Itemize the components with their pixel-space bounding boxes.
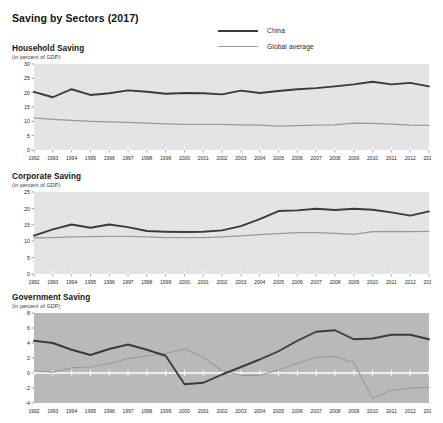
chart-svg-government: -4-2024681992199319941995199619971998199…	[12, 311, 431, 415]
y-tick-label: 15	[24, 104, 30, 110]
panel-title-household: Household Saving	[12, 44, 84, 53]
x-axis-year-label: 1994	[66, 155, 77, 161]
x-axis-year-label: 2001	[198, 408, 209, 414]
y-tick-label: 10	[24, 118, 30, 124]
panel-household-saving: Household Saving (in percent of GDP) 051…	[0, 44, 443, 169]
x-axis-year-label: 1992	[28, 408, 39, 414]
y-tick-label: 8	[27, 311, 30, 316]
x-axis-year-label: 2013	[423, 279, 431, 285]
x-axis-year-label: 1996	[104, 279, 115, 285]
x-axis-year-label: 2008	[329, 155, 340, 161]
x-axis-year-label: 2002	[217, 155, 228, 161]
panel-government-saving: Government Saving (in percent of GDP) -4…	[0, 293, 443, 421]
x-axis-year-label: 2007	[311, 279, 322, 285]
plot-area-government: -4-2024681992199319941995199619971998199…	[12, 311, 431, 415]
panel-subtitle-corporate: (in percent of GDP)	[12, 182, 60, 188]
x-axis-year-label: 2002	[217, 408, 228, 414]
y-tick-label: 0	[27, 370, 30, 376]
plot-background	[34, 64, 429, 150]
x-axis-year-label: 2006	[292, 279, 303, 285]
x-axis-year-label: 2007	[311, 408, 322, 414]
figure-title: Saving by Sectors (2017)	[12, 12, 139, 24]
x-axis-year-label: 2006	[292, 155, 303, 161]
y-tick-label: 2	[27, 355, 30, 361]
x-axis-year-label: 1993	[47, 155, 58, 161]
y-tick-label: 0	[27, 147, 30, 153]
x-axis-year-label: 2000	[179, 155, 190, 161]
plot-background	[34, 313, 429, 403]
x-axis-year-label: 2008	[329, 408, 340, 414]
figure-root: Saving by Sectors (2017) China Global av…	[0, 0, 443, 423]
panel-title-corporate: Corporate Saving	[12, 172, 81, 181]
x-axis-year-label: 1995	[85, 155, 96, 161]
x-axis-year-label: 1994	[66, 408, 77, 414]
x-axis-year-label: 1996	[104, 408, 115, 414]
y-tick-label: 30	[24, 62, 30, 67]
y-tick-label: 5	[27, 255, 30, 261]
x-axis-year-label: 2012	[405, 408, 416, 414]
legend-item-china: China	[218, 24, 388, 37]
x-axis-year-label: 2004	[254, 408, 265, 414]
x-axis-year-label: 2007	[311, 155, 322, 161]
x-axis-year-label: 2001	[198, 155, 209, 161]
x-axis-year-label: 2004	[254, 279, 265, 285]
x-axis-year-label: 2009	[348, 155, 359, 161]
x-axis-year-label: 1993	[47, 408, 58, 414]
y-tick-label: 4	[27, 340, 30, 346]
panel-title-government: Government Saving	[12, 293, 90, 302]
x-axis-year-label: 1997	[122, 155, 133, 161]
x-axis-year-label: 2011	[386, 155, 397, 161]
x-axis-year-label: 2001	[198, 279, 209, 285]
x-axis-year-label: 1997	[122, 279, 133, 285]
x-axis-year-label: 1998	[141, 408, 152, 414]
x-axis-year-label: 1997	[122, 408, 133, 414]
x-axis-year-label: 1999	[160, 408, 171, 414]
x-axis-year-label: 1998	[141, 279, 152, 285]
x-axis-year-label: 1999	[160, 279, 171, 285]
y-tick-label: 5	[27, 133, 30, 139]
plot-background	[34, 192, 429, 274]
x-axis-year-label: 2013	[423, 408, 431, 414]
x-axis-year-label: 2005	[273, 155, 284, 161]
x-axis-year-label: 2002	[217, 279, 228, 285]
chart-svg-household: 0510152025301992199319941995199619971998…	[12, 62, 431, 162]
y-tick-label: 6	[27, 325, 30, 331]
x-axis-year-label: 2008	[329, 279, 340, 285]
x-axis-year-label: 2011	[386, 408, 397, 414]
x-axis-year-label: 2004	[254, 155, 265, 161]
x-axis-year-label: 2009	[348, 279, 359, 285]
x-axis-year-label: 1995	[85, 279, 96, 285]
plot-area-household: 0510152025301992199319941995199619971998…	[12, 62, 431, 162]
x-axis-year-label: 2003	[235, 155, 246, 161]
x-axis-year-label: 2005	[273, 279, 284, 285]
y-tick-label: 25	[24, 75, 30, 81]
chart-svg-corporate: 0510152025199219931994199519961997199819…	[12, 190, 431, 286]
x-axis-year-label: 2010	[367, 408, 378, 414]
panel-subtitle-government: (in percent of GDP)	[12, 303, 60, 309]
x-axis-year-label: 1999	[160, 155, 171, 161]
x-axis-year-label: 1994	[66, 279, 77, 285]
x-axis-year-label: 2010	[367, 279, 378, 285]
x-axis-year-label: 2011	[386, 279, 397, 285]
x-axis-year-label: 2012	[405, 279, 416, 285]
panel-corporate-saving: Corporate Saving (in percent of GDP) 051…	[0, 172, 443, 292]
x-axis-year-label: 2013	[423, 155, 431, 161]
panel-subtitle-household: (in percent of GDP)	[12, 54, 60, 60]
y-tick-label: -4	[25, 400, 30, 406]
y-tick-label: -2	[25, 385, 30, 391]
x-axis-year-label: 1992	[28, 279, 39, 285]
x-axis-year-label: 2000	[179, 408, 190, 414]
y-tick-label: 15	[24, 222, 30, 228]
x-axis-year-label: 1992	[28, 155, 39, 161]
x-axis-year-label: 1996	[104, 155, 115, 161]
x-axis-year-label: 2006	[292, 408, 303, 414]
plot-area-corporate: 0510152025199219931994199519961997199819…	[12, 190, 431, 286]
x-axis-year-label: 1995	[85, 408, 96, 414]
x-axis-year-label: 1998	[141, 155, 152, 161]
y-tick-label: 10	[24, 238, 30, 244]
x-axis-year-label: 2005	[273, 408, 284, 414]
x-axis-year-label: 2012	[405, 155, 416, 161]
y-tick-label: 20	[24, 90, 30, 96]
x-axis-year-label: 2010	[367, 155, 378, 161]
x-axis-year-label: 2003	[235, 279, 246, 285]
